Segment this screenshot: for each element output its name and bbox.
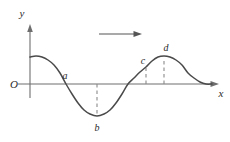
y-axis-label: y: [19, 7, 25, 19]
wave-diagram: y x O a b c d: [0, 0, 230, 142]
wave-diagram-svg: y x O a b c d: [0, 0, 230, 142]
point-label-b: b: [95, 122, 100, 133]
diagram-background: [0, 0, 230, 142]
origin-label: O: [10, 78, 18, 90]
point-label-a: a: [63, 70, 68, 81]
point-label-c: c: [141, 55, 146, 66]
x-axis-label: x: [218, 87, 224, 99]
